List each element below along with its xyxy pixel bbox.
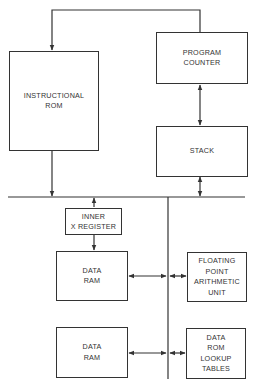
inner-x-register-line-1: INNER — [82, 212, 105, 222]
data-rom-lookup-block: DATA ROM LOOKUP TABLES — [186, 328, 246, 379]
data-ram-1-line-1: DATA — [83, 266, 102, 277]
fpu-line-1: FLOATING — [198, 256, 235, 267]
data-rom-line-1: DATA — [207, 333, 226, 344]
floating-point-unit-block: FLOATING POINT ARITHMETIC UNIT — [187, 252, 247, 302]
inner-x-register-line-2: X REGISTER — [71, 222, 117, 232]
data-rom-line-3: LOOKUP — [200, 354, 231, 365]
instructional-rom-line-2: ROM — [45, 101, 62, 112]
fpu-line-2: POINT — [206, 267, 229, 278]
inner-x-register-block: INNER X REGISTER — [65, 208, 122, 235]
data-ram-1-line-2: RAM — [84, 276, 101, 287]
stack-line-1: STACK — [190, 146, 214, 157]
data-ram-block-1: DATA RAM — [56, 251, 128, 301]
data-rom-line-4: TABLES — [202, 364, 230, 375]
program-counter-block: PROGRAM COUNTER — [156, 32, 248, 84]
fpu-line-4: UNIT — [208, 288, 226, 299]
program-counter-line-1: PROGRAM — [183, 48, 222, 59]
instructional-rom-line-1: INSTRUCTIONAL — [24, 91, 85, 102]
data-rom-line-2: ROM — [207, 343, 224, 354]
instructional-rom-block: INSTRUCTIONAL ROM — [9, 51, 99, 151]
data-ram-block-2: DATA RAM — [56, 327, 128, 378]
program-counter-line-2: COUNTER — [184, 58, 221, 69]
data-ram-2-line-2: RAM — [84, 353, 101, 364]
data-ram-2-line-1: DATA — [83, 342, 102, 353]
stack-block: STACK — [156, 126, 248, 177]
fpu-line-3: ARITHMETIC — [194, 277, 240, 288]
